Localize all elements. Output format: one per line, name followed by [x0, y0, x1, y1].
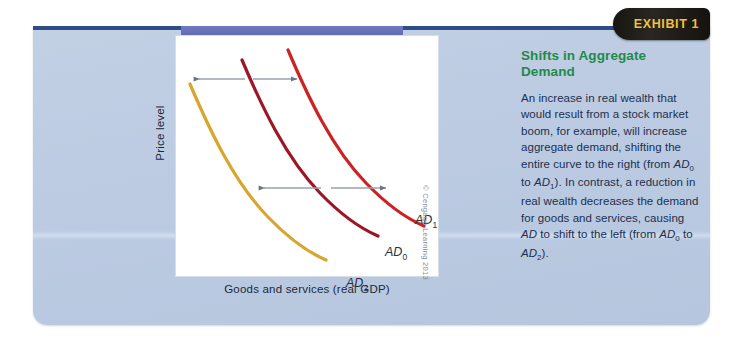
caption-body: An increase in real wealth that would re… — [521, 90, 699, 264]
curve-label-ad0-sub: 0 — [402, 252, 407, 262]
curve-label-ad0-text: AD — [385, 245, 402, 259]
curve-ad1 — [288, 50, 424, 226]
x-axis-label: Goods and services (real GDP) — [162, 283, 452, 295]
exhibit-number-tab: EXHIBIT 1 — [613, 8, 710, 40]
copyright-credit: © Cengage Learning 2013 — [421, 185, 430, 280]
aggregate-demand-curves-svg — [176, 36, 438, 276]
y-axis-label: Price level — [154, 53, 166, 213]
curve-label-ad0: AD0 — [385, 245, 407, 262]
caption-heading: Shifts in Aggregate Demand — [521, 48, 699, 81]
curve-label-ad1-sub: 1 — [432, 220, 437, 230]
curve-ad2 — [190, 84, 326, 260]
exhibit-tab-label: EXHIBIT 1 — [634, 17, 710, 31]
caption-column: Shifts in Aggregate Demand An increase i… — [521, 48, 699, 264]
chart-figure: AD1 AD0 AD2 Price level Goods and servic… — [142, 17, 472, 307]
plot-area — [175, 35, 439, 277]
